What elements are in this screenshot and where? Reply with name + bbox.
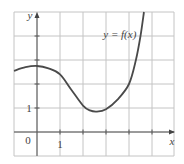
- y-axis-arrow-icon: [35, 12, 40, 18]
- x-axis-label: x: [169, 135, 175, 147]
- curve-annotation: y = f(x): [102, 28, 136, 41]
- ticks: [35, 36, 153, 135]
- y-tick-label-1: 1: [26, 102, 32, 114]
- x-tick-label-1: 1: [57, 138, 63, 150]
- y-axis-label: y: [27, 9, 33, 21]
- function-graph: x y 0 1 1 y = f(x): [0, 0, 184, 164]
- origin-label: 0: [25, 134, 31, 146]
- curve-f-of-x: [14, 12, 144, 112]
